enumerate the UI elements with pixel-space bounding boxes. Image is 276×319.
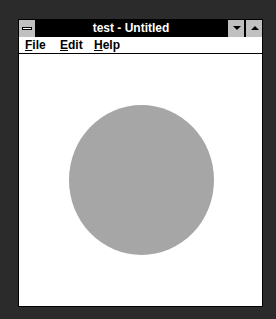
menu-help-mnemonic: H: [94, 38, 103, 52]
menu-edit-label: dit: [68, 38, 83, 52]
menu-bar: File Edit Help: [19, 37, 262, 54]
menu-help-label: elp: [103, 38, 120, 52]
menu-edit[interactable]: Edit: [60, 37, 83, 53]
menu-file-label: ile: [32, 38, 45, 52]
gray-circle: [69, 105, 214, 255]
window-title: test - Untitled: [36, 20, 226, 37]
client-area[interactable]: [19, 54, 262, 306]
system-menu-button[interactable]: [19, 20, 36, 37]
menu-help[interactable]: Help: [94, 37, 120, 53]
system-menu-icon: [22, 27, 32, 30]
title-bar[interactable]: test - Untitled: [19, 20, 262, 37]
menu-edit-mnemonic: E: [60, 38, 68, 52]
minimize-button[interactable]: [227, 20, 244, 37]
app-window: test - Untitled File Edit Help: [18, 19, 263, 307]
maximize-button[interactable]: [245, 20, 262, 37]
menu-file[interactable]: File: [25, 37, 46, 53]
maximize-arrow-icon: [251, 26, 259, 30]
minimize-arrow-icon: [233, 26, 241, 30]
